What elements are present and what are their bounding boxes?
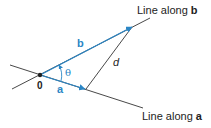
distance-d-line [86, 27, 132, 89]
vector-diagram [0, 0, 211, 128]
origin-dot [38, 73, 42, 77]
line-along-b-label: Line along b [137, 5, 198, 16]
distance-d-label: d [113, 57, 119, 68]
angle-arc [59, 65, 62, 81]
angle-theta-label: θ [65, 68, 71, 78]
line-along-a-label: Line along a [142, 111, 202, 122]
origin-label: 0 [37, 81, 43, 91]
vector-a-label: a [57, 84, 63, 95]
vector-b-label: b [77, 38, 84, 49]
